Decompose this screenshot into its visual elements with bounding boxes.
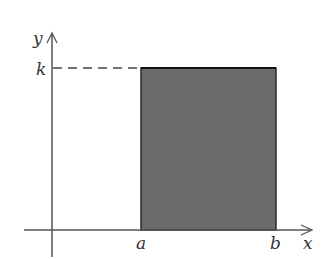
uniform-distribution-diagram: y k a b x <box>0 0 335 259</box>
shaded-region <box>141 68 276 230</box>
y-axis-label: y <box>32 28 43 48</box>
bound-label-b: b <box>270 233 281 253</box>
bound-label-a: a <box>136 233 146 253</box>
x-axis-label: x <box>303 233 313 253</box>
height-label-k: k <box>36 59 46 79</box>
